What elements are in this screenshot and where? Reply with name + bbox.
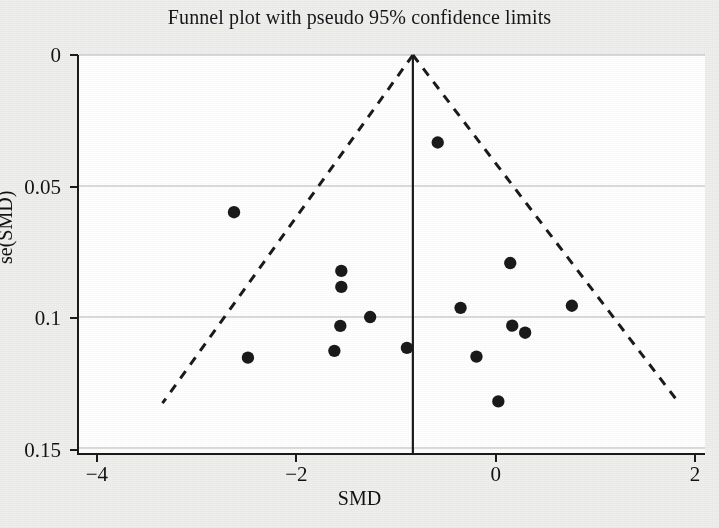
data-point — [335, 281, 347, 293]
x-tick-label: 0 — [490, 462, 501, 487]
data-point — [228, 206, 240, 218]
pseudo-confidence-limit-lines — [162, 55, 679, 403]
x-tick-mark — [295, 455, 297, 462]
x-tick-label: −2 — [285, 462, 307, 487]
data-point — [492, 395, 504, 407]
x-tick-label: −4 — [86, 462, 108, 487]
y-tick-mark — [70, 186, 78, 188]
data-point — [242, 351, 254, 363]
data-point — [335, 265, 347, 277]
x-tick-mark — [694, 455, 696, 462]
data-point — [432, 136, 444, 148]
data-point — [504, 257, 516, 269]
y-axis-title: se(SMD) — [0, 191, 17, 264]
x-tick-label: 2 — [690, 462, 701, 487]
y-tick-mark — [70, 449, 78, 451]
y-tick-mark — [70, 317, 78, 319]
plot-canvas — [79, 55, 705, 453]
x-tick-mark — [96, 455, 98, 462]
chart-title: Funnel plot with pseudo 95% confidence l… — [0, 6, 719, 29]
y-tick-mark — [70, 54, 78, 56]
data-point — [334, 320, 346, 332]
y-tick-label: 0.15 — [24, 437, 61, 462]
data-point — [566, 300, 578, 312]
data-point — [470, 350, 482, 362]
x-axis-title: SMD — [0, 487, 719, 510]
x-tick-mark — [495, 455, 497, 462]
data-point — [519, 327, 531, 339]
data-point — [401, 342, 413, 354]
y-tick-label: 0.1 — [35, 306, 61, 331]
data-point — [454, 302, 466, 314]
y-tick-label: 0.05 — [24, 174, 61, 199]
plot-area — [77, 55, 705, 455]
y-tick-label: 0 — [51, 43, 62, 68]
data-points — [228, 136, 578, 407]
data-point — [328, 345, 340, 357]
funnel-plot-figure: Funnel plot with pseudo 95% confidence l… — [0, 0, 719, 528]
data-point — [506, 319, 518, 331]
data-point — [364, 311, 376, 323]
